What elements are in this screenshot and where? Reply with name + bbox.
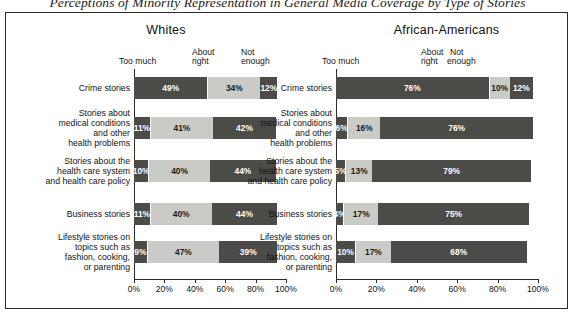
bar-value-label: 40% xyxy=(173,209,190,219)
x-axis-tick xyxy=(134,279,135,283)
bar-value-label: 68% xyxy=(450,247,467,257)
bar-segment-not-enough: 12% xyxy=(510,77,534,99)
x-axis-tick-label: 20% xyxy=(368,284,385,294)
category-label-line: topics such as xyxy=(222,242,332,252)
bar-value-label: 40% xyxy=(171,166,188,176)
figure-title: Perceptions of Minority Representation i… xyxy=(49,0,525,11)
x-axis-tick-label: 60% xyxy=(449,284,466,294)
bar-segment-about-right: 40% xyxy=(149,160,210,182)
chart-frame: Whites Too much About right Not enough 4… xyxy=(5,12,568,309)
x-axis-tick-label: 100% xyxy=(275,284,297,294)
category-label: Lifestyle stories ontopics such asfashio… xyxy=(10,232,130,273)
category-label-line: health problems xyxy=(222,138,332,148)
bar-segment-too-much: 10% xyxy=(134,160,149,182)
bar-value-label: 5% xyxy=(335,166,347,176)
bar-segment-too-much: 6% xyxy=(336,117,348,139)
bar-value-label: 12% xyxy=(513,83,530,93)
bar-segment-too-much: 11% xyxy=(134,117,151,139)
legend-about-right-line2-aa: right xyxy=(421,57,438,67)
bar-value-label: 75% xyxy=(445,209,462,219)
x-axis-tick xyxy=(457,279,458,283)
x-axis-tick xyxy=(336,279,337,283)
bar-value-label: 79% xyxy=(443,166,460,176)
x-axis-tick xyxy=(417,279,418,283)
x-axis-line-african-americans xyxy=(336,279,538,280)
bar-value-label: 47% xyxy=(175,247,192,257)
category-label-line: health care system xyxy=(10,166,130,176)
category-label: Business stories xyxy=(10,209,130,219)
legend-not-enough-line2-whites: enough xyxy=(241,57,270,67)
bar-segment-too-much: 10% xyxy=(336,241,356,263)
category-label-line: Lifestyle stories on xyxy=(222,232,332,242)
bar-value-label: 9% xyxy=(134,247,146,257)
legend-too-much-whites: Too much xyxy=(119,57,156,67)
category-label: Stories about thehealth care systemand h… xyxy=(10,156,130,187)
category-label-line: Lifestyle stories on xyxy=(10,232,130,242)
x-axis-tick xyxy=(256,279,257,283)
bar-value-label: 17% xyxy=(365,247,382,257)
bar-segment-about-right: 17% xyxy=(344,203,378,225)
x-axis-tick xyxy=(286,279,287,283)
category-label-line: Business stories xyxy=(10,209,130,219)
x-axis-tick xyxy=(376,279,377,283)
x-axis-tick-label: 20% xyxy=(156,284,173,294)
category-label-line: Crime stories xyxy=(10,83,130,93)
category-label-line: and other xyxy=(10,128,130,138)
bar-value-label: 13% xyxy=(351,166,368,176)
bar-value-label: 10% xyxy=(337,247,354,257)
category-label-line: Stories about the xyxy=(10,156,130,166)
bar-value-label: 11% xyxy=(134,209,150,219)
bar-row: 4%17%75% xyxy=(336,203,530,225)
legend-not-enough-line2-aa: enough xyxy=(447,57,476,67)
x-axis-tick xyxy=(164,279,165,283)
bar-segment-about-right: 47% xyxy=(148,241,219,263)
category-label-line: health problems xyxy=(10,138,130,148)
category-label: Crime stories xyxy=(10,83,130,93)
bar-value-label: 10% xyxy=(133,166,150,176)
category-label-line: Business stories xyxy=(222,209,332,219)
bar-segment-not-enough: 79% xyxy=(372,160,532,182)
category-label: Lifestyle stories ontopics such asfashio… xyxy=(222,232,332,273)
x-axis-line-whites xyxy=(134,279,286,280)
bar-row: 6%16%76% xyxy=(336,117,534,139)
category-label-line: and health care policy xyxy=(10,176,130,186)
bar-segment-about-right: 40% xyxy=(151,203,212,225)
bar-segment-about-right: 10% xyxy=(490,77,510,99)
x-axis-tick xyxy=(225,279,226,283)
x-axis-tick-label: 40% xyxy=(186,284,203,294)
bar-value-label: 49% xyxy=(162,83,179,93)
category-label-line: Crime stories xyxy=(222,83,332,93)
category-label-line: health care system xyxy=(222,166,332,176)
category-label-line: Stories about the xyxy=(222,156,332,166)
figure-title-clip: Perceptions of Minority Representation i… xyxy=(0,0,575,12)
category-label: Business stories xyxy=(222,209,332,219)
bar-value-label: 17% xyxy=(353,209,370,219)
category-label: Stories aboutmedical conditionsand other… xyxy=(222,108,332,149)
x-axis-tick-label: 0% xyxy=(330,284,342,294)
x-axis-tick-label: 40% xyxy=(408,284,425,294)
x-axis-tick-label: 0% xyxy=(128,284,140,294)
bar-segment-about-right: 16% xyxy=(348,117,380,139)
category-label-line: topics such as xyxy=(10,242,130,252)
x-axis-tick-label: 60% xyxy=(217,284,234,294)
bar-value-label: 76% xyxy=(404,83,421,93)
category-label-line: fashion, cooking, xyxy=(222,252,332,262)
panel-title-whites: Whites xyxy=(6,23,298,37)
bar-value-label: 76% xyxy=(448,123,465,133)
category-label-line: or parenting xyxy=(10,262,130,272)
bar-row: 10%17%68% xyxy=(336,241,528,263)
x-axis-tick-label: 100% xyxy=(527,284,549,294)
legend-about-right-line2-whites: right xyxy=(192,57,209,67)
bar-segment-about-right: 41% xyxy=(151,117,213,139)
category-label-line: and other xyxy=(222,128,332,138)
bar-segment-too-much: 9% xyxy=(134,241,148,263)
bar-segment-too-much: 49% xyxy=(134,77,208,99)
plot-area-african-americans: 76%10%12%6%16%76%5%13%79%4%17%75%10%17%6… xyxy=(336,69,538,279)
category-label: Stories about thehealth care systemand h… xyxy=(222,156,332,187)
legend-too-much-aa: Too much xyxy=(322,57,359,67)
panel-african-americans: African-Americans Too much About right N… xyxy=(298,13,569,308)
x-axis-tick-label: 80% xyxy=(247,284,264,294)
x-axis-tick xyxy=(195,279,196,283)
bar-value-label: 41% xyxy=(173,123,190,133)
category-label-line: medical conditions xyxy=(10,118,130,128)
